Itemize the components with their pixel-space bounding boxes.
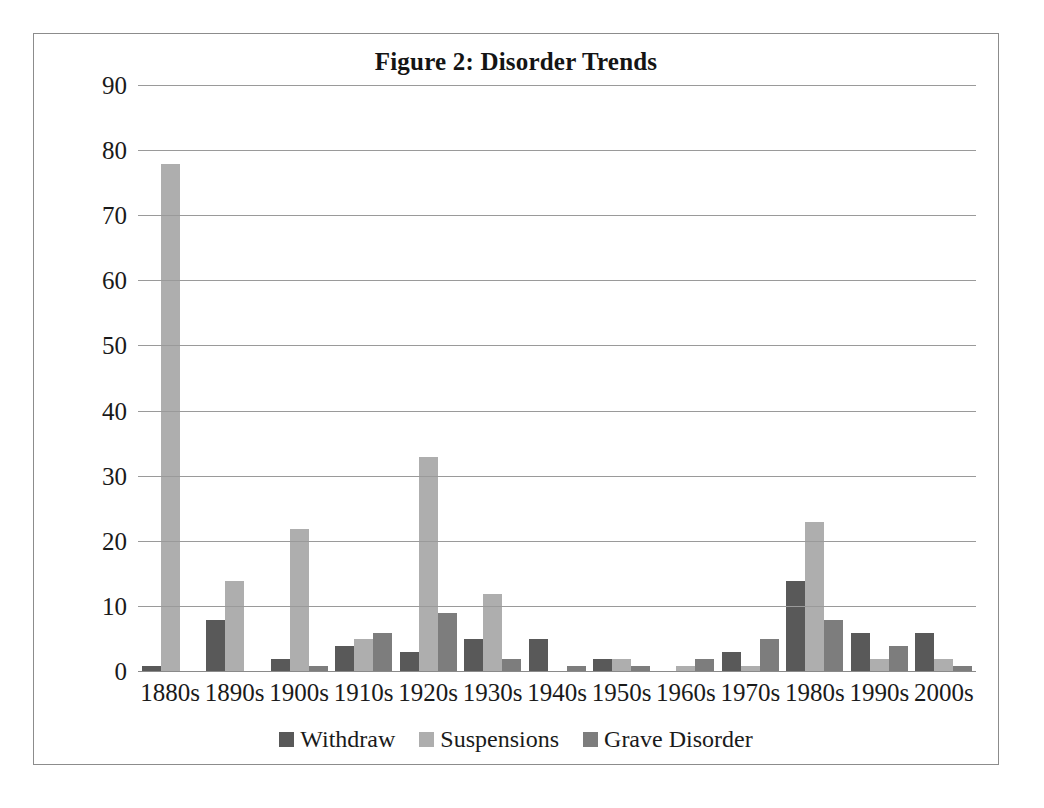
bar-group — [331, 86, 395, 672]
legend-swatch-icon — [279, 732, 294, 747]
bar — [805, 522, 824, 672]
bar — [889, 646, 908, 672]
chart-legend: WithdrawSuspensionsGrave Disorder — [34, 727, 998, 751]
x-axis-spacer — [86, 678, 138, 712]
x-axis-tick-label: 1980s — [783, 678, 847, 712]
legend-label: Grave Disorder — [604, 727, 753, 751]
bar — [851, 633, 870, 672]
y-axis-tick-label: 60 — [102, 268, 127, 293]
bar-group — [718, 86, 782, 672]
x-axis-tick-label: 1990s — [847, 678, 911, 712]
y-axis-tick-label: 90 — [102, 73, 127, 98]
x-axis-baseline: 0 — [138, 671, 976, 672]
bar — [225, 581, 244, 672]
legend-item: Withdraw — [279, 727, 395, 751]
bar-group — [267, 86, 331, 672]
x-axis-tick-label: 1940s — [525, 678, 589, 712]
x-axis-tick-label: 1900s — [267, 678, 331, 712]
legend-swatch-icon — [419, 732, 434, 747]
bar-group — [912, 86, 976, 672]
gridline: 70 — [138, 215, 976, 216]
bar — [824, 620, 843, 672]
gridline: 40 — [138, 411, 976, 412]
x-axis-tick-list: 1880s1890s1900s1910s1920s1930s1940s1950s… — [138, 678, 976, 712]
bar-group — [396, 86, 460, 672]
x-axis-tick-label: 1930s — [460, 678, 524, 712]
bar — [206, 620, 225, 672]
bar — [290, 529, 309, 672]
x-axis-tick-label: 1950s — [589, 678, 653, 712]
y-axis-tick-label: 40 — [102, 398, 127, 423]
gridline: 80 — [138, 150, 976, 151]
bar-group — [202, 86, 266, 672]
y-axis-tick-label: 50 — [102, 333, 127, 358]
y-axis-tick-label: 10 — [102, 593, 127, 618]
legend-item: Suspensions — [419, 727, 559, 751]
x-axis-tick-label: 1880s — [138, 678, 202, 712]
x-axis-tick-label: 2000s — [912, 678, 976, 712]
bar-group — [589, 86, 653, 672]
x-axis-tick-label: 1960s — [654, 678, 718, 712]
bar — [400, 652, 419, 672]
bar — [529, 639, 548, 672]
x-axis-tick-label: 1970s — [718, 678, 782, 712]
legend-swatch-icon — [583, 732, 598, 747]
y-axis-tick-label: 30 — [102, 463, 127, 488]
bar-group — [138, 86, 202, 672]
gridline: 20 — [138, 541, 976, 542]
y-axis-tick-label: 20 — [102, 528, 127, 553]
gridline: 90 — [138, 85, 976, 86]
x-axis-tick-label: 1910s — [331, 678, 395, 712]
bar — [335, 646, 354, 672]
gridline: 30 — [138, 476, 976, 477]
bar — [438, 613, 457, 672]
legend-item: Grave Disorder — [583, 727, 753, 751]
bar-group — [654, 86, 718, 672]
bar — [464, 639, 483, 672]
bar-group — [783, 86, 847, 672]
bar — [161, 164, 180, 672]
figure-frame: Figure 2: Disorder Trends 01020304050607… — [33, 33, 999, 765]
x-axis-tick-label: 1890s — [202, 678, 266, 712]
bar-group — [525, 86, 589, 672]
x-axis-labels: 1880s1890s1900s1910s1920s1930s1940s1950s… — [86, 678, 976, 712]
bars-layer — [138, 86, 976, 672]
bar-group — [460, 86, 524, 672]
bar — [354, 639, 373, 672]
x-axis-tick-label: 1920s — [396, 678, 460, 712]
legend-label: Suspensions — [440, 727, 559, 751]
bar — [786, 581, 805, 672]
bar — [373, 633, 392, 672]
chart-title: Figure 2: Disorder Trends — [34, 48, 998, 76]
gridline: 60 — [138, 280, 976, 281]
y-axis-tick-label: 70 — [102, 203, 127, 228]
bar-group — [847, 86, 911, 672]
bar — [419, 457, 438, 672]
plot-area: 0102030405060708090 — [86, 86, 976, 672]
grid-region: 0102030405060708090 — [138, 86, 976, 672]
gridline: 10 — [138, 606, 976, 607]
bar — [915, 633, 934, 672]
y-axis-tick-label: 80 — [102, 138, 127, 163]
bar — [760, 639, 779, 672]
bar — [722, 652, 741, 672]
gridline: 50 — [138, 345, 976, 346]
legend-label: Withdraw — [300, 727, 395, 751]
